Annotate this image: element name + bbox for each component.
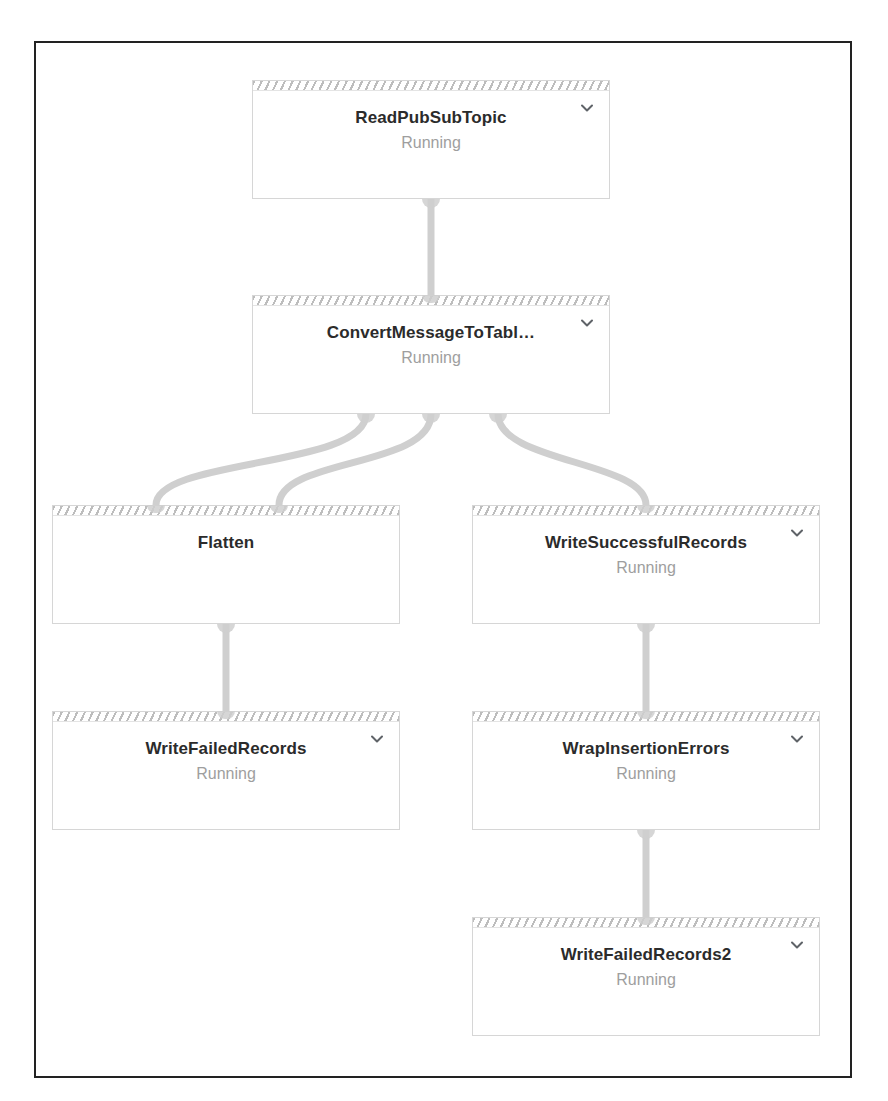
node-title: ConvertMessageToTabl… [253,322,609,344]
node-title: WriteFailedRecords2 [473,944,819,966]
node-title: WriteFailedRecords [53,738,399,760]
chevron-down-icon[interactable] [788,524,806,542]
node-body: WrapInsertionErrors Running [473,721,819,829]
chevron-down-icon[interactable] [788,936,806,954]
node-title: ReadPubSubTopic [253,107,609,129]
port-flatten-out [217,624,235,633]
port-read-out [422,199,440,208]
node-convert-message-to-table[interactable]: ConvertMessageToTabl… Running [252,295,610,414]
node-body: WriteFailedRecords Running [53,721,399,829]
chevron-down-icon[interactable] [578,99,596,117]
node-flatten[interactable]: Flatten [52,505,400,624]
node-write-failed-records-2[interactable]: WriteFailedRecords2 Running [472,917,820,1036]
node-status: Running [473,763,819,785]
node-read-pub-sub-topic[interactable]: ReadPubSubTopic Running [252,80,610,199]
node-body: WriteFailedRecords2 Running [473,927,819,1035]
node-body: WriteSuccessfulRecords Running [473,515,819,623]
node-title: WriteSuccessfulRecords [473,532,819,554]
node-body: ReadPubSubTopic Running [253,90,609,198]
node-body: ConvertMessageToTabl… Running [253,305,609,413]
port-wrap-out [637,830,655,839]
job-graph-frame: ReadPubSubTopic Running ConvertMessageTo… [34,41,852,1078]
node-body: Flatten [53,515,399,623]
node-write-failed-records[interactable]: WriteFailedRecords Running [52,711,400,830]
edge-convert-to-flatten-b [279,414,431,505]
node-status: Running [473,969,819,991]
node-status: Running [253,132,609,154]
node-title: WrapInsertionErrors [473,738,819,760]
job-graph-canvas[interactable]: ReadPubSubTopic Running ConvertMessageTo… [36,43,850,1076]
port-convert-out-right [489,414,507,423]
node-status: Running [473,557,819,579]
edge-convert-to-write-successful [498,414,646,505]
node-status: Running [253,347,609,369]
node-write-successful-records[interactable]: WriteSuccessfulRecords Running [472,505,820,624]
chevron-down-icon[interactable] [788,730,806,748]
port-convert-out-center [422,414,440,423]
chevron-down-icon[interactable] [368,730,386,748]
node-status: Running [53,763,399,785]
edge-convert-to-flatten-a [156,414,366,505]
node-wrap-insertion-errors[interactable]: WrapInsertionErrors Running [472,711,820,830]
port-convert-out-left [357,414,375,423]
node-title: Flatten [53,532,399,554]
port-write-successful-out [637,624,655,633]
chevron-down-icon[interactable] [578,314,596,332]
